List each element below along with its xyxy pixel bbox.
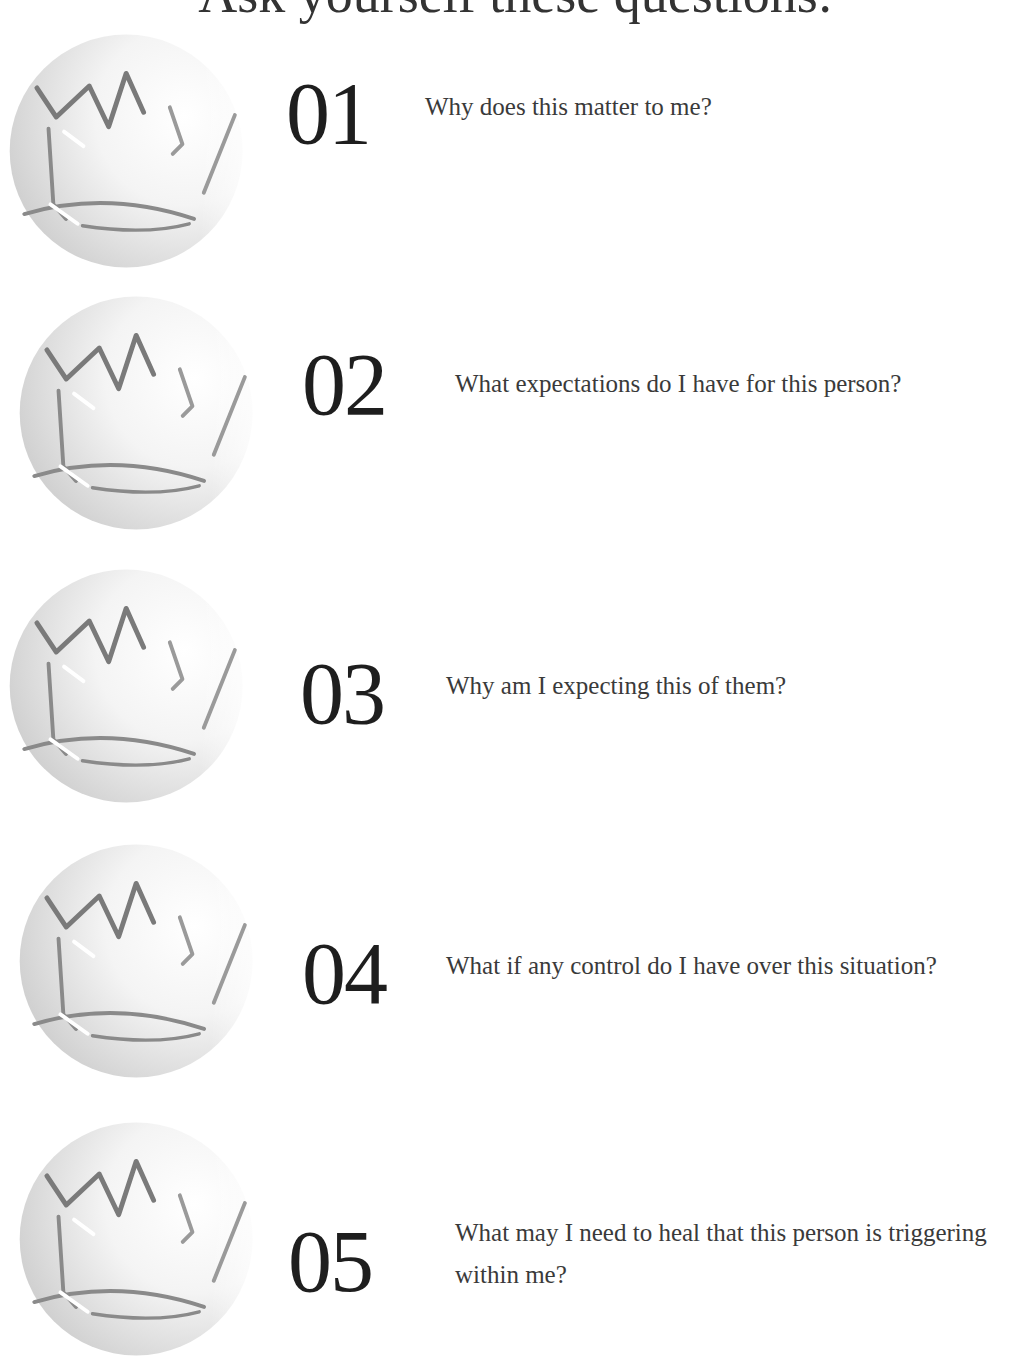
question-item: 02 What expectations do I have for this … <box>0 282 1031 552</box>
crown-icon <box>0 555 262 817</box>
question-text: Why does this matter to me? <box>425 86 712 128</box>
item-number: 03 <box>300 650 384 738</box>
question-item: 03 Why am I expecting this of them? <box>0 555 1031 825</box>
question-item: 01 Why does this matter to me? <box>0 20 1031 290</box>
crown-icon <box>10 830 272 1092</box>
question-item: 04 What if any control do I have over th… <box>0 830 1031 1100</box>
crown-icon <box>0 20 262 282</box>
item-number: 01 <box>286 70 370 158</box>
question-text: What expectations do I have for this per… <box>455 363 901 405</box>
question-text: Why am I expecting this of them? <box>446 665 786 707</box>
question-text: What if any control do I have over this … <box>446 945 937 987</box>
question-text: What may I need to heal that this person… <box>455 1212 1015 1296</box>
question-item: 05 What may I need to heal that this per… <box>0 1108 1031 1308</box>
crown-icon <box>10 282 272 544</box>
item-number: 02 <box>302 341 386 429</box>
crown-icon <box>10 1108 272 1360</box>
item-number: 04 <box>302 930 386 1018</box>
item-number: 05 <box>288 1218 372 1306</box>
